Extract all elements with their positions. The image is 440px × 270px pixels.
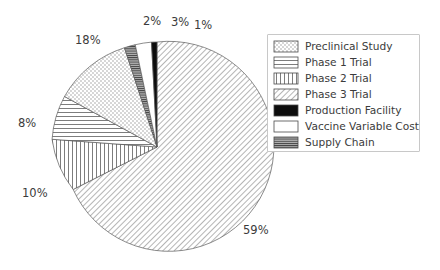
legend-label-preclinical-study: Preclinical Study [305,40,392,52]
legend-item-phase-1-trial[interactable]: Phase 1 Trial [274,56,372,68]
pct-label-3: 3% [171,15,189,29]
pct-label-18: 18% [75,33,101,47]
legend-swatch-preclinical-study [274,41,298,52]
pie-chart-figure: 18% 2% 3% 1% 8% 10% 59% Preclinical Stud… [0,0,440,270]
legend: Preclinical Study Phase 1 Trial Phase 2 … [268,35,420,152]
legend-item-phase-3-trial[interactable]: Phase 3 Trial [274,88,372,100]
legend-label-vaccine-variable-cost: Vaccine Variable Cost [305,120,419,132]
pct-label-59: 59% [243,223,269,237]
legend-item-preclinical-study[interactable]: Preclinical Study [274,40,392,52]
chart-canvas: 18% 2% 3% 1% 8% 10% 59% Preclinical Stud… [0,0,440,270]
legend-swatch-vaccine-variable-cost [274,121,298,132]
pct-label-1: 1% [194,18,212,32]
pie-slices [52,41,274,251]
legend-swatch-supply-chain [274,137,298,148]
pct-label-2: 2% [143,14,161,28]
legend-label-phase-3-trial: Phase 3 Trial [305,88,372,100]
legend-item-supply-chain[interactable]: Supply Chain [274,136,375,148]
legend-label-production-facility: Production Facility [305,104,401,116]
legend-swatch-phase-3-trial [274,89,298,100]
pct-label-8: 8% [18,116,36,130]
legend-item-vaccine-variable-cost[interactable]: Vaccine Variable Cost [274,120,419,132]
legend-swatch-phase-1-trial [274,57,298,68]
legend-label-phase-1-trial: Phase 1 Trial [305,56,372,68]
pct-label-10: 10% [22,186,48,200]
legend-swatch-phase-2-trial [274,73,298,84]
legend-label-supply-chain: Supply Chain [305,136,375,148]
legend-label-phase-2-trial: Phase 2 Trial [305,72,372,84]
legend-item-phase-2-trial[interactable]: Phase 2 Trial [274,72,372,84]
legend-item-production-facility[interactable]: Production Facility [274,104,401,116]
legend-swatch-production-facility [274,105,298,116]
